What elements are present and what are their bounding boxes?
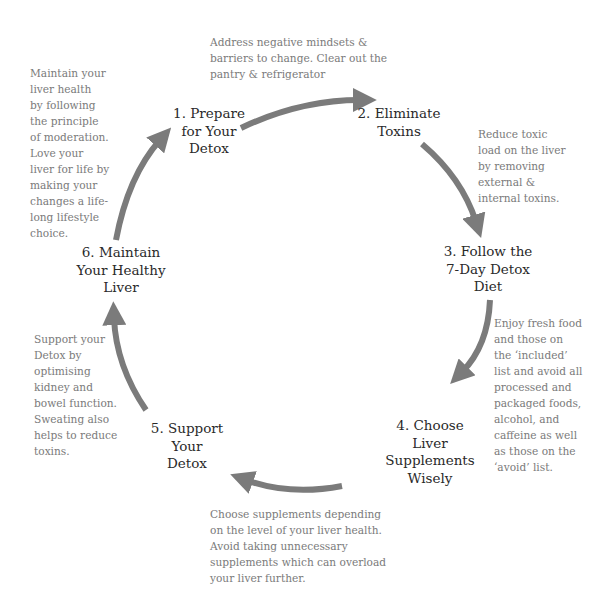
step-1-title: 1. Prepare for Your Detox [160,105,258,158]
arrow-2-to-3-icon [422,144,476,222]
arrow-1-to-2-icon [241,100,360,128]
step-4-description: Choose supplements depending on the leve… [210,506,410,586]
step-4-title: 4. Choose Liver Supplements Wisely [380,417,480,487]
step-5-description: Support your Detox by optimising kidney … [34,331,144,459]
step-2-description: Reduce toxic load on the liver by removi… [478,126,588,206]
step-2-title: 2. Eliminate Toxins [350,105,448,140]
step-3-title: 3. Follow the 7-Day Detox Diet [432,243,544,296]
arrow-3-to-4-icon [462,300,490,372]
step-6-title: 6. Maintain Your Healthy Liver [66,244,176,297]
arrow-4-to-5-icon [246,480,342,490]
step-5-title: 5. Support Your Detox [142,420,232,473]
step-6-description: Maintain your liver health by following … [30,65,140,241]
step-3-description: Enjoy fresh food and those on the ‘inclu… [494,315,604,475]
step-1-description: Address negative mindsets & barriers to … [210,34,410,82]
